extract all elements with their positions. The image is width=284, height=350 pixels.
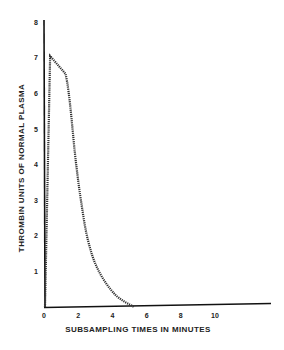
y-tick-label: 7: [34, 54, 38, 61]
y-tick-label: 5: [34, 126, 38, 133]
x-axis: [44, 304, 271, 308]
y-tick-label: 2: [34, 232, 38, 239]
x-tick-label: 6: [145, 312, 149, 319]
data-line: [45, 56, 134, 307]
x-tick-label: 2: [76, 312, 80, 319]
x-tick-label: 10: [211, 312, 219, 319]
x-tick-label: 0: [42, 312, 46, 319]
y-tick-label: 4: [34, 161, 38, 168]
y-tick-label: 6: [34, 90, 38, 97]
data-series: [45, 56, 134, 307]
chart: 12345678 0246810 SUBSAMPLING TIMES IN MI…: [0, 0, 284, 350]
x-axis-label: SUBSAMPLING TIMES IN MINUTES: [65, 325, 211, 334]
x-tick-label: 8: [179, 312, 183, 319]
y-tick-label: 3: [34, 197, 38, 204]
x-tick-labels: 0246810: [42, 312, 219, 319]
y-tick-label: 8: [34, 19, 38, 26]
y-axis-label: THROMBIN UNITS OF NORMAL PLASMA: [17, 84, 26, 252]
y-tick-label: 1: [34, 268, 38, 275]
y-tick-labels: 12345678: [34, 19, 38, 275]
x-tick-label: 4: [110, 312, 114, 319]
